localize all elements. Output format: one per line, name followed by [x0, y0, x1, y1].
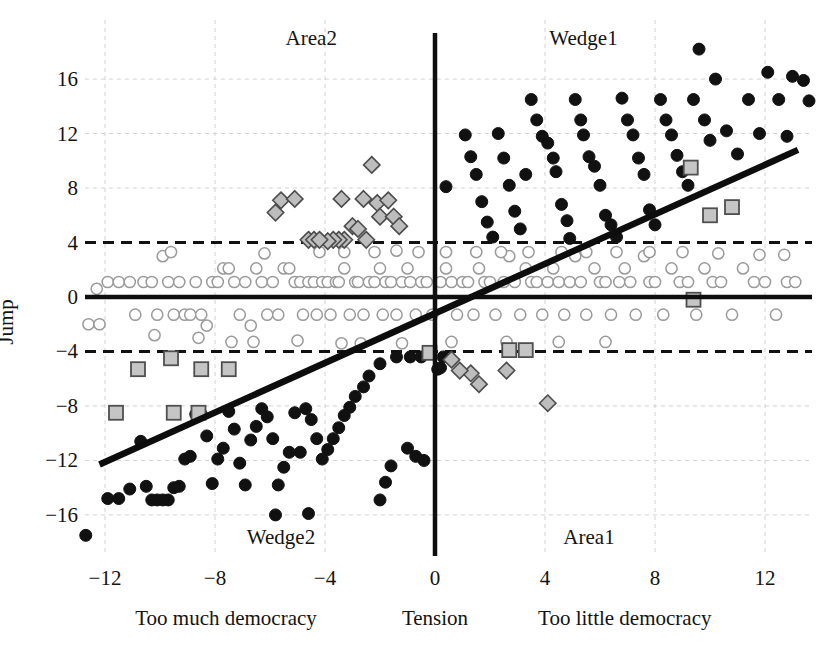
data-point-open-circle [770, 309, 781, 320]
data-point-filled-circle [283, 446, 295, 458]
data-point-open-circle [658, 309, 669, 320]
data-point-filled-circle [773, 94, 785, 106]
data-point-open-circle [396, 338, 407, 349]
data-point-filled-circle [547, 152, 559, 164]
data-point-filled-circle [289, 407, 301, 419]
data-point-open-circle [666, 263, 677, 274]
data-point-open-circle [649, 276, 660, 287]
data-point-filled-circle [234, 457, 246, 469]
data-point-filled-circle [385, 460, 397, 472]
data-point-filled-circle [531, 114, 543, 126]
data-point-filled-circle [391, 351, 403, 363]
data-point-filled-circle [459, 129, 471, 141]
data-point-filled-circle [113, 493, 125, 505]
data-point-filled-circle [206, 478, 218, 490]
data-point-filled-circle [693, 43, 705, 55]
data-point-filled-circle [556, 198, 568, 210]
data-point-filled-circle [374, 358, 386, 370]
data-point-filled-circle [349, 390, 361, 402]
data-point-open-circle [677, 246, 688, 257]
data-point-open-circle [405, 276, 416, 287]
data-point-filled-circle [256, 403, 268, 415]
data-point-open-circle [292, 335, 303, 346]
data-point-open-circle [564, 276, 575, 287]
data-point-filled-circle [649, 219, 661, 231]
data-point-open-circle [358, 309, 369, 320]
data-point-filled-circle [564, 232, 576, 244]
data-point-filled-circle [509, 205, 521, 217]
data-point-open-circle [385, 276, 396, 287]
data-point-open-circle [229, 276, 240, 287]
data-point-open-circle [165, 246, 176, 257]
data-point-filled-circle [179, 453, 191, 465]
data-point-open-circle [446, 336, 457, 347]
data-point-open-circle [91, 283, 102, 294]
data-point-open-circle [212, 276, 223, 287]
x-axis-tick-label: 8 [650, 568, 661, 589]
data-point-open-circle [575, 276, 586, 287]
data-point-open-circle [531, 276, 542, 287]
data-point-open-circle [234, 309, 245, 320]
data-point-open-circle [185, 309, 196, 320]
data-point-open-circle [284, 263, 295, 274]
data-point-open-circle [193, 332, 204, 343]
data-point-open-circle [713, 248, 724, 259]
data-point-open-circle [523, 246, 534, 257]
data-point-square [725, 200, 739, 214]
data-point-open-circle [715, 276, 726, 287]
data-point-filled-circle [102, 493, 114, 505]
data-point-open-circle [614, 276, 625, 287]
data-point-diamond [498, 362, 514, 378]
data-point-filled-circle [798, 74, 810, 86]
data-point-open-circle [682, 276, 693, 287]
x-axis-caption: Tension [402, 608, 468, 629]
data-point-open-circle [190, 276, 201, 287]
data-point-open-circle [553, 276, 564, 287]
data-point-open-circle [344, 309, 355, 320]
series-gray-square [109, 161, 739, 420]
data-point-open-circle [553, 336, 564, 347]
data-point-open-circle [754, 249, 765, 260]
data-point-open-circle [691, 309, 702, 320]
data-point-filled-circle [338, 409, 350, 421]
data-point-filled-circle [267, 433, 279, 445]
data-point-filled-circle [704, 134, 716, 146]
data-point-filled-circle [561, 215, 573, 227]
data-point-diamond [333, 191, 349, 207]
data-point-open-circle [369, 246, 380, 257]
x-axis-tick-label: −4 [314, 568, 336, 589]
data-point-open-circle [440, 246, 451, 257]
data-point-filled-circle [754, 128, 766, 140]
data-point-filled-circle [616, 92, 628, 104]
data-point-open-circle [462, 276, 473, 287]
data-point-filled-circle [492, 128, 504, 140]
data-point-filled-circle [294, 446, 306, 458]
data-point-filled-circle [272, 479, 284, 491]
data-point-open-circle [352, 276, 363, 287]
plot-svg [0, 0, 819, 645]
data-point-open-circle [374, 263, 385, 274]
data-point-filled-circle [627, 129, 639, 141]
data-point-filled-circle [481, 216, 493, 228]
data-point-filled-circle [682, 179, 694, 191]
data-point-open-circle [759, 276, 770, 287]
x-axis-tick-label: 4 [540, 568, 551, 589]
data-point-filled-circle [245, 434, 257, 446]
data-point-filled-circle [525, 94, 537, 106]
data-point-open-circle [311, 309, 322, 320]
data-point-open-circle [748, 276, 759, 287]
data-point-filled-circle [358, 381, 370, 393]
data-point-square [164, 351, 178, 365]
data-point-filled-circle [578, 129, 590, 141]
data-point-filled-circle [660, 114, 672, 126]
data-point-open-circle [471, 246, 482, 257]
data-point-filled-circle [803, 95, 815, 107]
region-label-wedge1: Wedge1 [549, 28, 617, 49]
data-point-open-circle [630, 309, 641, 320]
data-point-open-circle [440, 263, 451, 274]
data-point-square [684, 161, 698, 175]
data-point-filled-circle [212, 453, 224, 465]
data-point-filled-circle [80, 529, 92, 541]
x-axis-caption: Too much democracy [135, 608, 317, 629]
data-point-open-circle [600, 336, 611, 347]
